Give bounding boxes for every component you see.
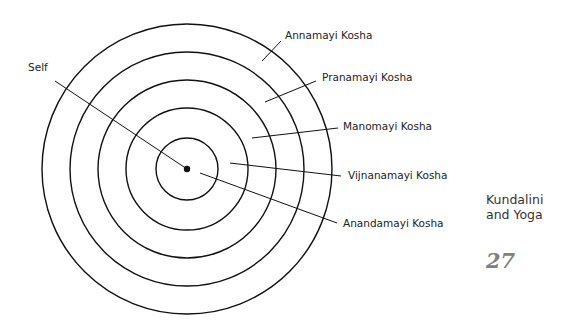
leader-manomayi bbox=[252, 128, 338, 138]
leader-anandamayi bbox=[200, 173, 337, 223]
label-vijnanamayi: Vijnanamayi Kosha bbox=[348, 170, 447, 181]
label-pranamayi: Pranamayi Kosha bbox=[322, 72, 412, 83]
label-self: Self bbox=[28, 62, 48, 73]
leader-self bbox=[55, 81, 187, 169]
leader-annamayi bbox=[262, 41, 281, 61]
label-annamayi: Annamayi Kosha bbox=[285, 30, 372, 41]
label-manomayi: Manomayi Kosha bbox=[343, 121, 432, 132]
section-title: Kundalini and Yoga bbox=[486, 192, 566, 222]
leader-pranamayi bbox=[265, 81, 316, 102]
label-anandamayi: Anandamayi Kosha bbox=[343, 218, 444, 229]
page-number: 27 bbox=[486, 250, 515, 271]
leader-vijnanamayi bbox=[230, 163, 341, 176]
